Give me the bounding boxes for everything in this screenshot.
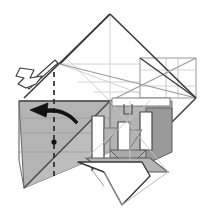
origami-diagram-canvas	[0, 0, 208, 212]
pivot-point-dot	[51, 139, 56, 144]
white-slot-mid	[118, 122, 130, 152]
top-ledge-strip	[112, 98, 170, 106]
origami-folding-step-illustration	[0, 0, 208, 212]
